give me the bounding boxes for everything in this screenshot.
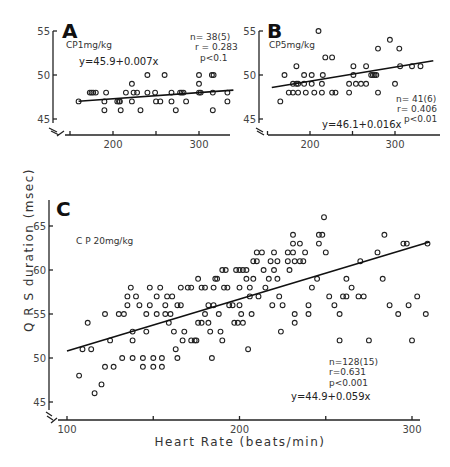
data-point <box>303 90 308 95</box>
data-point <box>178 285 183 290</box>
x-axis-title: Heart Rate (beats/min) <box>155 435 326 449</box>
data-point <box>137 303 142 308</box>
data-point <box>206 303 211 308</box>
data-point <box>147 285 152 290</box>
data-point <box>330 55 335 60</box>
data-point <box>279 329 284 334</box>
panel-c-regression-line <box>67 242 429 351</box>
data-point <box>125 303 130 308</box>
svg-text:200: 200 <box>230 424 249 435</box>
data-point <box>327 294 332 299</box>
data-point <box>173 347 178 352</box>
data-point <box>92 391 97 396</box>
data-point <box>423 312 428 317</box>
svg-text:50: 50 <box>243 70 256 81</box>
data-point <box>163 303 168 308</box>
data-point <box>387 303 392 308</box>
data-point <box>189 285 194 290</box>
svg-text:45: 45 <box>33 397 46 408</box>
data-point <box>347 90 352 95</box>
data-point <box>251 276 256 281</box>
panel-c-y-ticks: 4550556065 <box>33 221 53 408</box>
data-point <box>323 250 328 255</box>
svg-text:200: 200 <box>103 139 122 150</box>
data-point <box>256 294 261 299</box>
data-point <box>393 81 398 86</box>
panel-b-axis-break <box>256 128 264 135</box>
data-point <box>315 276 320 281</box>
data-point <box>298 241 303 246</box>
panel-a-dose-label: CP1mg/kg <box>66 40 112 50</box>
data-point <box>291 250 296 255</box>
data-point <box>356 294 361 299</box>
data-point <box>322 215 327 220</box>
data-point <box>138 108 143 113</box>
data-point <box>169 99 174 104</box>
figure-canvas: 455055 200300 A CP1mg/kg y=45.9+0.007x n… <box>0 0 450 467</box>
data-point <box>184 99 189 104</box>
data-point <box>323 55 328 60</box>
data-point <box>275 259 280 264</box>
data-point <box>310 285 315 290</box>
data-point <box>172 329 177 334</box>
data-point <box>235 320 240 325</box>
data-point <box>154 312 159 317</box>
data-point <box>144 329 149 334</box>
data-point <box>285 259 290 264</box>
data-point <box>180 338 185 343</box>
svg-text:300: 300 <box>385 139 404 150</box>
data-point <box>332 303 337 308</box>
panel-b-p: p<0.01 <box>404 114 437 124</box>
data-point <box>294 64 299 69</box>
data-point <box>317 241 322 246</box>
data-point <box>168 312 173 317</box>
panel-b-n: n= 41(6) <box>396 94 436 104</box>
panel-b-regression-line <box>272 61 434 88</box>
data-point <box>247 285 252 290</box>
data-point <box>302 73 307 78</box>
panel-c-dose-label: C P 20mg/kg <box>76 236 133 246</box>
svg-text:50: 50 <box>33 353 46 364</box>
data-point <box>151 356 156 361</box>
data-point <box>376 90 381 95</box>
panel-c-x-ticks: 100200300 <box>57 416 421 435</box>
data-point <box>196 276 201 281</box>
data-point <box>175 356 180 361</box>
svg-text:300: 300 <box>402 424 421 435</box>
data-point <box>347 81 352 86</box>
data-point <box>237 285 242 290</box>
data-point <box>309 81 314 86</box>
data-point <box>396 312 401 317</box>
data-point <box>359 81 364 86</box>
panel-c: 4550556065 100200300 C C P 20mg/kg n=128… <box>33 197 430 435</box>
data-point <box>266 276 271 281</box>
data-point <box>410 338 415 343</box>
data-point <box>116 312 121 317</box>
svg-text:200: 200 <box>300 139 319 150</box>
data-point <box>254 259 259 264</box>
data-point <box>361 294 366 299</box>
data-point <box>160 356 165 361</box>
data-point <box>344 276 349 281</box>
data-point <box>230 303 235 308</box>
data-point <box>147 303 152 308</box>
data-point <box>206 320 211 325</box>
data-point <box>354 81 359 86</box>
data-point <box>178 303 183 308</box>
data-point <box>287 268 292 273</box>
data-point <box>268 259 273 264</box>
data-point <box>120 356 125 361</box>
data-point <box>349 285 354 290</box>
data-point <box>244 268 249 273</box>
data-point <box>102 108 107 113</box>
data-point <box>261 268 266 273</box>
data-point <box>197 73 202 78</box>
data-point <box>239 312 244 317</box>
data-point <box>312 90 317 95</box>
panel-b-dose-label: CP5mg/kg <box>269 40 315 50</box>
panel-b-equation: y=46.1+0.016x <box>322 119 402 130</box>
data-point <box>130 99 135 104</box>
panel-c-letter: C <box>56 197 71 221</box>
data-point <box>291 241 296 246</box>
data-point <box>237 303 242 308</box>
